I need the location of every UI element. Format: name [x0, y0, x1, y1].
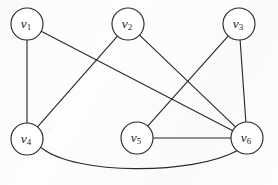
graph-node-v6[interactable]: v6: [231, 122, 263, 154]
node-label-subscript-v1: 1: [27, 22, 32, 32]
node-label-subscript-v4: 4: [27, 137, 32, 147]
node-label-subscript-v2: 2: [128, 22, 133, 32]
graph-edge-v1-v6: [41, 31, 233, 130]
graph-node-v4[interactable]: v4: [11, 123, 43, 155]
graph-canvas: v1v2v3v4v5v6: [0, 0, 278, 185]
graph-edge-v3-v6: [240, 40, 246, 122]
node-label-subscript-v3: 3: [239, 22, 244, 32]
graph-figure: v1v2v3v4v5v6: [0, 0, 278, 185]
graph-node-v2[interactable]: v2: [112, 8, 144, 40]
graph-node-v5[interactable]: v5: [121, 122, 153, 154]
graph-node-v1[interactable]: v1: [11, 8, 43, 40]
graph-node-v3[interactable]: v3: [223, 8, 255, 40]
node-label-subscript-v5: 5: [137, 136, 142, 146]
node-label-subscript-v6: 6: [247, 136, 252, 146]
graph-edge-v3-v5: [148, 36, 229, 126]
